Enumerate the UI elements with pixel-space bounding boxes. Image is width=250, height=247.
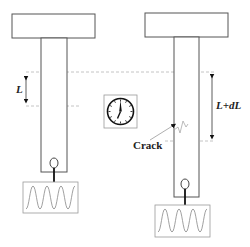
left-gauge-length-label: L — [16, 83, 23, 95]
right-sensor-icon — [181, 179, 189, 189]
right-clamp-block — [145, 13, 228, 37]
left-sensor-icon — [50, 158, 58, 168]
right-bar — [174, 37, 199, 197]
left-clamp-block — [12, 14, 95, 38]
crack-pointer-line — [150, 125, 174, 140]
crack-label: Crack — [133, 139, 162, 151]
left-specimen — [12, 14, 95, 213]
right-specimen — [145, 13, 228, 237]
right-gauge-length-label: L+dL — [216, 99, 241, 111]
clock-icon — [104, 95, 137, 128]
left-bar — [41, 38, 67, 172]
diagram-canvas — [0, 0, 250, 247]
